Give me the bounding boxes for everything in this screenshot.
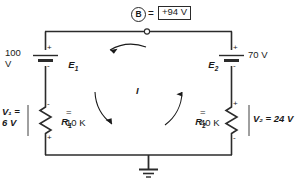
resistor-r2-value: = 40 K	[200, 107, 220, 129]
resistor-r1-bottom-sign: +	[47, 133, 52, 142]
source-e2-minus-sign: -	[233, 61, 236, 70]
circuit-diagram	[0, 0, 303, 188]
source-e1-value: 100 V	[5, 48, 21, 70]
source-e2-value: 70 V	[248, 50, 268, 60]
resistor-r2-drop-label: V₂ = 24 V	[253, 114, 293, 124]
source-e2-subscript: 2	[215, 65, 219, 72]
source-e1-subscript: 1	[75, 65, 79, 72]
battery-e1-symbol	[33, 56, 58, 61]
battery-e2-symbol	[219, 56, 244, 61]
resistor-r1-value: = 10 K	[66, 107, 86, 129]
node-b-terminal[interactable]	[144, 29, 149, 34]
source-e1-plus-sign: +	[47, 43, 52, 52]
current-label: I	[136, 86, 139, 96]
source-e2-plus-sign: +	[233, 43, 238, 52]
resistor-r2-bottom-sign: -	[233, 133, 236, 142]
ground-symbol	[139, 155, 158, 177]
source-e1-minus-sign: -	[47, 61, 50, 70]
resistor-r2-top-sign: +	[233, 99, 238, 108]
node-label-circle-b: B	[131, 7, 146, 22]
resistor-r1-drop-label: V₁ = 6 V	[2, 107, 20, 129]
node-label-equals: =	[148, 8, 154, 19]
resistor-r1-top-sign: -	[47, 99, 50, 108]
node-voltage-value: +94 V	[158, 6, 191, 20]
